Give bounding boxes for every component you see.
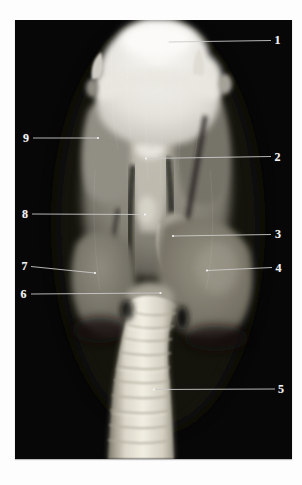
- anatomy-figure: 123456789: [0, 0, 302, 485]
- figure-label-6: 6: [21, 287, 27, 299]
- figure-label-9: 9: [23, 132, 29, 144]
- figure-label-3: 3: [275, 228, 281, 240]
- figure-label-8: 8: [22, 208, 28, 220]
- figure-label-4: 4: [276, 261, 282, 273]
- epiglottis-highlight: [121, 22, 193, 58]
- figure-label-5: 5: [278, 383, 284, 395]
- figure-label-2: 2: [275, 151, 281, 163]
- figure-label-1: 1: [275, 34, 281, 46]
- figure-label-7: 7: [22, 260, 28, 272]
- photo-panel: [15, 20, 292, 459]
- specimen-illustration: [15, 20, 292, 459]
